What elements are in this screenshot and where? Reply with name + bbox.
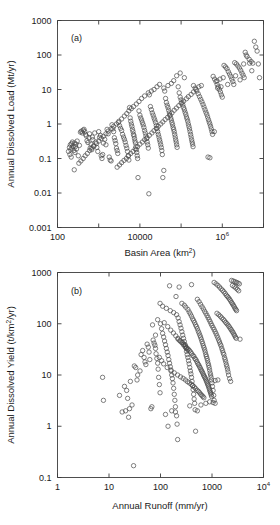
x-tick-label: 10	[104, 482, 114, 492]
panel-b-dissolved-yield: 10001001010.1 1101001000104 (b) Annual R…	[0, 262, 280, 524]
data-point	[203, 107, 207, 111]
scatter-figure: 10001001010.10.010.001 10010000106 (a) B…	[0, 0, 280, 525]
data-point	[178, 95, 182, 99]
panel-a-x-tick-labels: 10010000106	[50, 231, 230, 242]
panel-a-plot: 10001001010.10.010.001 10010000106 (a) B…	[0, 0, 280, 262]
data-point	[232, 82, 236, 86]
panel-a-x-axis-title: Basin Area (km2)	[124, 247, 195, 259]
panel-a-x-axis-title-main: Basin Area (km	[124, 247, 188, 258]
data-point	[175, 145, 179, 149]
panel-a-dissolved-load: 10001001010.10.010.001 10010000106 (a) B…	[0, 0, 280, 262]
data-point	[128, 379, 132, 383]
data-point	[171, 381, 175, 385]
data-point	[189, 92, 193, 96]
data-point	[166, 83, 170, 87]
data-point	[226, 323, 230, 327]
data-point	[176, 85, 180, 89]
panel-a-tag: (a)	[71, 33, 82, 43]
data-point	[76, 154, 80, 158]
data-point	[150, 323, 154, 327]
data-point	[192, 397, 196, 401]
data-point	[171, 78, 175, 82]
data-point	[91, 138, 95, 142]
data-point	[131, 463, 135, 467]
data-point	[157, 382, 161, 386]
data-point	[124, 388, 128, 392]
data-point	[162, 168, 166, 172]
data-point	[117, 393, 121, 397]
data-point	[138, 369, 142, 373]
data-point	[135, 373, 139, 377]
panel-b-y-axis-title: Annual Dissolved Yield (t/km2/yr)	[5, 306, 17, 444]
data-point	[199, 403, 203, 407]
y-tick-label: 1	[46, 119, 51, 129]
panel-a-axes-frame	[58, 21, 264, 228]
data-point	[126, 415, 130, 419]
x-tick-label: 106	[216, 231, 230, 242]
x-tick-label: 104	[257, 481, 271, 492]
data-point	[250, 69, 254, 73]
y-tick-label: 0.1	[39, 154, 52, 164]
panel-a-y-tick-labels: 10001001010.10.010.001	[29, 16, 52, 233]
data-point	[175, 422, 179, 426]
data-point	[147, 350, 151, 354]
data-point	[111, 129, 115, 133]
data-point	[109, 159, 113, 163]
data-point	[154, 352, 158, 356]
data-point	[119, 117, 123, 121]
data-point	[182, 75, 186, 79]
y-tick-label: 1000	[31, 16, 51, 26]
data-point	[142, 94, 146, 98]
data-point	[167, 284, 171, 288]
data-point	[243, 50, 247, 54]
x-tick-label: 100	[153, 482, 168, 492]
panel-b-tag: (b)	[71, 286, 82, 296]
data-point	[159, 327, 163, 331]
data-point	[100, 375, 104, 379]
x-tick-label: 10000	[127, 232, 152, 242]
data-point	[191, 392, 195, 396]
data-point	[177, 285, 181, 289]
data-point	[252, 39, 256, 43]
data-point	[191, 144, 195, 148]
data-point	[166, 424, 170, 428]
x-tick-label: 1	[55, 482, 60, 492]
y-tick-label: 10	[41, 85, 51, 95]
panel-a-x-ticks	[58, 21, 264, 228]
data-point	[96, 149, 100, 153]
data-point	[171, 386, 175, 390]
data-point	[147, 192, 151, 196]
data-point	[148, 357, 152, 361]
data-point	[175, 437, 179, 441]
data-point	[164, 100, 168, 104]
data-point	[255, 49, 259, 53]
panel-b-plot: 10001001010.1 1101001000104 (b) Annual R…	[0, 262, 280, 525]
panel-a-y-ticks	[58, 21, 264, 228]
data-point	[113, 138, 117, 142]
data-point	[163, 412, 167, 416]
y-tick-label: 0.01	[34, 188, 52, 198]
data-point	[153, 333, 157, 337]
data-point	[140, 348, 144, 352]
panel-b-y-axis-title-main: Annual Dissolved Yield (t/km	[5, 323, 16, 443]
data-point	[116, 151, 120, 155]
data-point	[143, 360, 147, 364]
y-tick-label: 10	[41, 370, 51, 380]
x-tick-label: 100	[50, 232, 65, 242]
data-point	[122, 384, 126, 388]
panel-b-y-axis-title-tail: /yr)	[5, 306, 16, 320]
data-point	[163, 89, 167, 93]
panel-a-y-axis-title: Annual Dissolved Load (Mt/yr)	[5, 60, 16, 187]
data-point	[72, 168, 76, 172]
data-point	[142, 125, 146, 129]
data-point	[122, 114, 126, 118]
data-point	[151, 338, 155, 342]
data-point	[112, 136, 116, 140]
data-point	[256, 62, 260, 66]
data-point	[172, 392, 176, 396]
data-point	[186, 359, 190, 363]
data-point	[130, 403, 134, 407]
data-point	[135, 378, 139, 382]
data-point	[194, 87, 198, 91]
data-point	[158, 391, 162, 395]
